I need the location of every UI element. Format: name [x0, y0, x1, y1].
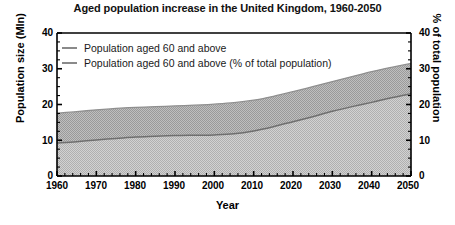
chart-container: Aged population increase in the United K… [0, 0, 455, 225]
plot-area [0, 0, 455, 225]
